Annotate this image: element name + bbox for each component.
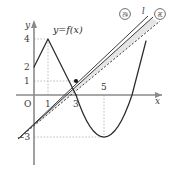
axes [16,20,162,165]
y-tick-2: 2 [24,62,30,72]
line-b-lower-dashed [18,21,160,139]
math-figure: ㅩ ㅪ y=f(x) l y x O 1 3 5 4 2 1 −3 [0,0,172,172]
y-tick-1: 1 [24,76,30,86]
guide-lines [34,39,104,137]
function-label: y=f(x) [52,24,83,35]
x-axis-label: x [155,96,160,106]
line-l-middle [18,16,148,139]
x-tick-3: 3 [73,99,79,109]
curve-linear-part [34,39,76,95]
line-a-upper [18,17,153,139]
marked-point-3-1 [74,79,78,83]
function-curve [34,39,146,137]
x-tick-1: 1 [45,99,51,109]
origin-label: O [24,99,31,109]
y-tick-4: 4 [24,34,30,44]
callout-a-label: ㅩ [122,11,129,19]
y-tick-neg3: −3 [17,132,31,142]
line-l-label: l [142,6,145,16]
callout-b-label: ㅪ [157,11,163,19]
y-axis-label: y [24,20,31,30]
callout-b: ㅪ [155,9,166,20]
callout-a: ㅩ [120,9,131,20]
y-axis-arrow [31,20,37,28]
x-tick-5: 5 [101,82,107,92]
